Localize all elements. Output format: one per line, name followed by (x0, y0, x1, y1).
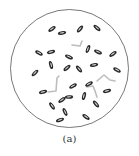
rod-bacterium (93, 24, 102, 32)
rod-bacterium (63, 64, 72, 72)
rod-bacterium (38, 89, 47, 95)
rod-bacterium (85, 44, 91, 53)
microscope-field-circle (11, 10, 129, 128)
rod-bacterium (31, 69, 39, 77)
rod-bacterium (48, 60, 54, 69)
rod-bacterium (93, 49, 102, 56)
rod-bacterium (58, 30, 67, 35)
rod-bacterium (82, 113, 91, 121)
rod-bacterium (62, 107, 69, 116)
rod-bacterium (102, 88, 111, 94)
rod-bacterium (81, 91, 87, 100)
filament-group (48, 41, 115, 97)
rod-bacterium (112, 66, 121, 73)
rod-bacterium (92, 100, 100, 109)
rod-bacterium (76, 25, 84, 34)
rod-bacterium (55, 117, 64, 123)
rod-bacterium (90, 62, 99, 67)
rod-bacterium (109, 50, 118, 58)
rod-bacterium (34, 49, 43, 56)
figure-caption: (a) (0, 133, 139, 144)
rod-bacterium (64, 54, 73, 61)
rod-bacterium (48, 25, 57, 33)
filament (48, 76, 59, 92)
filament (97, 75, 115, 81)
filament (72, 41, 82, 46)
rod-bacteria-group (31, 24, 122, 123)
filament (87, 86, 97, 97)
rod-bacterium (65, 95, 74, 99)
rod-bacterium (75, 65, 83, 74)
rod-bacterium (68, 82, 77, 89)
rod-bacterium (46, 49, 55, 55)
rod-bacterium (48, 102, 56, 111)
